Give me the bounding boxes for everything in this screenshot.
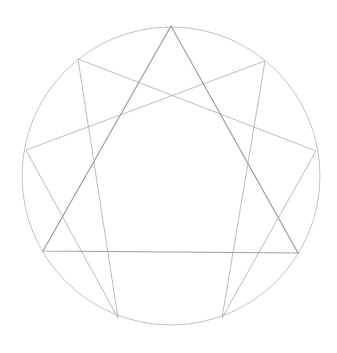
hexad-line-8-5 (78, 59, 118, 318)
outer-circle (22, 27, 320, 325)
hexad-lines (26, 59, 316, 318)
hexad-line-5-7 (26, 150, 118, 318)
enneagram-diagram (0, 0, 337, 353)
